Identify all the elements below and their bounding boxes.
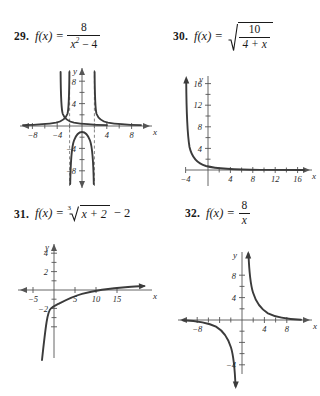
graph-30-ylabel-4: 4 (198, 144, 203, 154)
cube-root-sign-icon: 3 (67, 205, 80, 222)
problem-31-statement: 31. f(x) = 3 x + 2 − 2 (14, 205, 134, 222)
graph-31-svg: −5 5 10 15 2 4 −2 x y (10, 240, 160, 392)
graph-31-x-axis-label: x (152, 291, 157, 301)
graph-31-ylabel--2: −2 (38, 304, 49, 314)
problem-30-equals: = (215, 29, 222, 44)
problem-30-fraction: 10 4 + x (239, 24, 269, 51)
problem-32-number: 32. (185, 207, 200, 219)
graph-32-y-axis-label: y (232, 250, 237, 260)
graph-29-ylabel--8: −8 (66, 166, 77, 176)
problem-30-denominator: 4 + x (239, 37, 269, 51)
graph-29-axes (20, 68, 152, 188)
problem-29-number: 29. (14, 30, 29, 42)
graph-32-figure: −8 4 8 8 4 −4 x y (170, 238, 320, 392)
graph-30-ylabel-8: 8 (198, 122, 203, 132)
problem-30-statement: 30. f(x) = 10 4 + x (173, 22, 273, 51)
graph-29-y-axis-label: y (72, 66, 77, 76)
graph-32-xlabel-8: 8 (285, 324, 290, 334)
graph-29-ylabel-4: 4 (72, 99, 77, 109)
problem-32-denominator: x (239, 213, 250, 227)
problem-30-number: 30. (173, 30, 188, 42)
problem-31-number: 31. (14, 208, 29, 220)
graph-29-xlabel--8: −8 (27, 130, 38, 140)
problem-29-equals: = (56, 29, 63, 44)
graph-31-figure: −5 5 10 15 2 4 −2 x y (10, 240, 160, 392)
problem-30-radicand: 10 4 + x (238, 22, 272, 51)
problem-29-fraction: 8 x2 − 4 (67, 22, 100, 51)
graph-32-axes (178, 252, 312, 374)
graph-30-xlabel-12: 12 (271, 174, 280, 184)
graph-32-ylabel--4: −4 (226, 360, 237, 370)
graph-30-xlabel-8: 8 (251, 174, 256, 184)
graph-30-ylabel-12: 12 (194, 100, 203, 110)
problem-30-numerator: 10 (246, 24, 264, 37)
graph-30-svg: −4 4 8 12 16 4 8 12 16 x y (170, 62, 320, 190)
graph-29-ylabel-8: 8 (72, 77, 77, 87)
problem-30-den-text: 4 + x (242, 38, 266, 50)
graph-31-xlabel-10: 10 (92, 294, 101, 304)
graph-31-ylabel-2: 2 (44, 267, 49, 277)
problem-29-den-exponent: 2 (76, 36, 80, 45)
graph-29-svg: −8 −4 4 8 8 4 −4 −8 x y (10, 62, 160, 190)
graph-29-figure: −8 −4 4 8 8 4 −4 −8 x y (10, 62, 160, 190)
problem-31-radicand: x + 2 (80, 205, 109, 222)
problem-29-denominator: x2 − 4 (67, 35, 100, 51)
graph-32-xlabel--8: −8 (192, 324, 203, 334)
problem-29-function-label: f(x) (35, 29, 52, 44)
graph-31-axes (18, 244, 152, 358)
graph-29-xlabel--4: −4 (52, 130, 63, 140)
worksheet-page: 29. f(x) = 8 x2 − 4 30. f(x) = 10 4 + x (0, 0, 320, 396)
graph-30-xlabel--4: −4 (181, 174, 192, 184)
problem-29-statement: 29. f(x) = 8 x2 − 4 (14, 22, 100, 51)
graph-32-svg: −8 4 8 8 4 −4 x y (170, 238, 320, 392)
problem-32-numerator: 8 (238, 200, 250, 213)
graph-32-xlabel-4: 4 (262, 324, 267, 334)
problem-32-function-label: f(x) (206, 206, 223, 221)
graph-32-x-axis-label: x (312, 321, 317, 331)
graph-29-ylabel--4: −4 (66, 144, 77, 154)
graph-30-xlabel-4: 4 (228, 174, 233, 184)
graph-30-x-axis-label: x (311, 171, 316, 181)
graph-32-ylabel-8: 8 (232, 271, 237, 281)
graph-29-x-axis-label: x (152, 127, 157, 137)
problem-29-den-rest: − 4 (82, 38, 97, 50)
graph-31-tick-labels: −5 5 10 15 2 4 −2 (28, 248, 121, 313)
problem-30-radical: 10 4 + x (226, 22, 272, 51)
graph-30-y-axis-label: y (198, 74, 203, 84)
problem-32-equals: = (227, 206, 234, 221)
problem-31-equals: = (56, 206, 63, 221)
problem-30-function-label: f(x) (194, 29, 211, 44)
graph-32-ylabel-4: 4 (232, 293, 237, 303)
graph-32-tick-labels: −8 4 8 8 4 −4 (192, 271, 289, 371)
problem-32-statement: 32. f(x) = 8 x (185, 200, 250, 227)
graph-31-xlabel--5: −5 (28, 294, 38, 304)
graph-31-xlabel-15: 15 (113, 294, 122, 304)
graph-29-xlabel-8: 8 (129, 130, 134, 140)
problem-29-numerator: 8 (78, 22, 90, 35)
graph-30-figure: −4 4 8 12 16 4 8 12 16 x y (170, 62, 320, 190)
graph-29-xlabel-4: 4 (105, 130, 110, 140)
problem-31-radical: 3 x + 2 (67, 205, 109, 222)
radical-sign-icon (226, 22, 238, 51)
graph-31-y-axis-label: y (44, 242, 49, 252)
problem-32-fraction: 8 x (238, 200, 250, 227)
problem-31-trailing: − 2 (114, 206, 130, 221)
graph-31-xlabel-5: 5 (73, 294, 77, 304)
graph-30-xlabel-16: 16 (293, 174, 302, 184)
problem-31-function-label: f(x) (35, 206, 52, 221)
